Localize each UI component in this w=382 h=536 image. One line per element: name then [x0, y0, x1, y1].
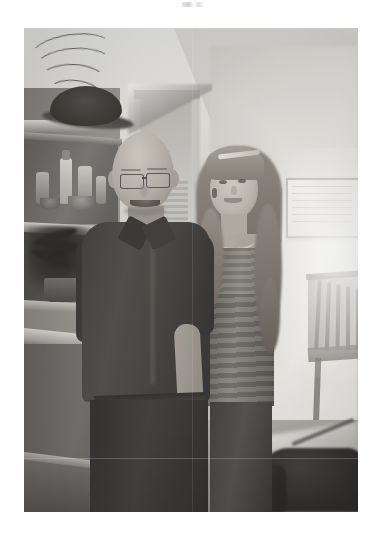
page-root	[0, 0, 382, 536]
photograph	[24, 28, 358, 512]
vignette	[24, 28, 358, 512]
print-artifact-mark	[182, 2, 204, 7]
